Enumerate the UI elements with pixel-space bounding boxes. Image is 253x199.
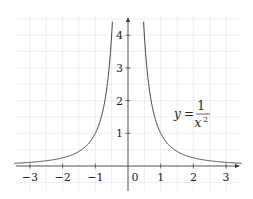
y-tick-label: 4 [116, 29, 123, 42]
x-tick-label: 0 [132, 171, 139, 184]
grid-lines [14, 15, 240, 191]
x-tick-label: −1 [87, 171, 103, 184]
y-tick-label: 1 [116, 127, 123, 140]
x-tick-label: 3 [223, 171, 230, 184]
function-plot: −3−2−101231234 y = 1 x 2 [0, 0, 253, 199]
x-tick-label: 1 [157, 171, 164, 184]
x-tick-label: −3 [22, 171, 38, 184]
equation-lhs: y [173, 107, 181, 121]
x-tick-label: 2 [190, 171, 197, 184]
equation-equals: = [184, 107, 194, 121]
x-tick-label: −2 [54, 171, 70, 184]
equation-exponent: 2 [203, 115, 208, 124]
equation-label: y = 1 x 2 [173, 99, 210, 130]
equation-numerator: 1 [197, 99, 205, 113]
y-tick-label: 2 [116, 95, 123, 108]
axes [16, 17, 240, 191]
y-tick-label: 3 [116, 62, 123, 75]
equation-denominator: x [195, 116, 202, 130]
